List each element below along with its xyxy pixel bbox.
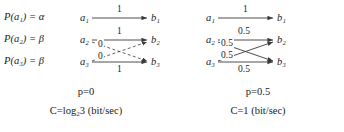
edge-label-a3-b2-right: 0.5 xyxy=(220,50,234,60)
edge-label-a2-b2-right: 0.5 xyxy=(237,26,251,36)
node-b3-right: b₃ xyxy=(277,56,286,68)
panel-left: P(a₁) = α P(a₂) = β P(a₃) = β xyxy=(0,0,172,132)
panel-right: a₁ a₂ a₃ b₁ b₂ b₃ 1 0.5 0.5 0.5 0.5 p=0.… xyxy=(172,0,344,132)
edge-label-a1-b1-left: 1 xyxy=(116,4,123,14)
edge-label-a2-b2-left: 1 xyxy=(116,26,123,36)
edge-label-a3-b3-left: 1 xyxy=(116,64,123,74)
node-a1-right: a₁ xyxy=(206,12,215,24)
edge-label-a2-b3-left: 0 xyxy=(97,39,104,49)
node-a2-left: a₂ xyxy=(80,34,89,46)
edge-label-a1-b1-right: 1 xyxy=(242,4,249,14)
channel-diagram-figure: P(a₁) = α P(a₂) = β P(a₃) = β xyxy=(0,0,344,132)
edge-label-a2-b3-right: 0.5 xyxy=(220,38,234,48)
node-b1-right: b₁ xyxy=(277,12,286,24)
node-a3-left: a₃ xyxy=(80,56,89,68)
caption-p-left: p=0 xyxy=(0,86,172,97)
caption-c-right-text: C=1 (bit/sec) xyxy=(230,105,285,116)
node-b2-left: b₂ xyxy=(151,34,160,46)
node-a2-right: a₂ xyxy=(206,34,215,46)
edge-label-a3-b2-left: 0 xyxy=(97,51,104,61)
node-a3-right: a₃ xyxy=(206,56,215,68)
caption-p-left-text: p=0 xyxy=(78,86,94,97)
caption-p-right-text: p=0.5 xyxy=(246,86,270,97)
edge-label-a3-b3-right: 0.5 xyxy=(237,64,251,74)
node-a1-left: a₁ xyxy=(80,12,89,24)
caption-p-right: p=0.5 xyxy=(172,86,344,97)
node-b1-left: b₁ xyxy=(151,12,160,24)
node-b3-left: b₃ xyxy=(151,56,160,68)
caption-c-left: C=log₂3 (bit/sec) xyxy=(0,105,172,116)
caption-c-right: C=1 (bit/sec) xyxy=(172,105,344,116)
node-b2-right: b₂ xyxy=(277,34,286,46)
caption-c-left-text: C=log₂3 (bit/sec) xyxy=(50,105,122,116)
